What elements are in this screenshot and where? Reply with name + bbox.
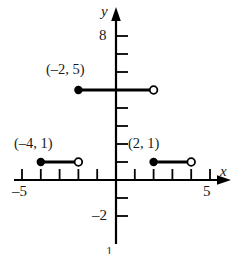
point-label-left: (–4, 1): [14, 136, 53, 151]
y-tick-label-neg2: –2: [92, 208, 107, 223]
point-label-right: (2, 1): [128, 136, 159, 151]
y-tick-label-8: 8: [99, 28, 107, 43]
x-axis-label: x: [220, 164, 227, 179]
point-label-top: (–2, 5): [46, 62, 85, 77]
x-tick-label-neg5: –5: [12, 184, 27, 199]
segment-left: [37, 158, 83, 166]
segment-right-closed-endpoint: [149, 158, 157, 166]
segment-right-open-endpoint: [187, 158, 195, 166]
bottom-text-fragment: 1: [106, 244, 113, 254]
segment-top-closed-endpoint: [74, 86, 82, 94]
coordinate-plane-svg: [0, 0, 233, 254]
segment-right: [149, 158, 195, 166]
segment-left-closed-endpoint: [37, 158, 45, 166]
x-tick-label-5: 5: [203, 184, 211, 199]
graph-figure: y x 8 –2 –5 5 (–2, 5) (–4, 1) (2, 1) 1: [0, 0, 233, 254]
segment-top-open-endpoint: [150, 86, 158, 94]
y-axis-label: y: [101, 4, 108, 19]
segment-left-open-endpoint: [75, 158, 83, 166]
y-axis-arrowhead: [111, 7, 121, 21]
y-axis-ticks: [116, 36, 128, 216]
